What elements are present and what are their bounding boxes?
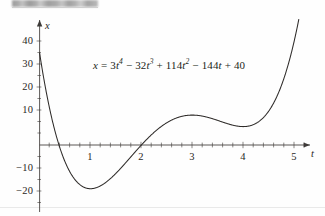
equation-term2-exp: 3 <box>150 57 154 66</box>
equation-op1: − <box>126 59 132 71</box>
y-tick-label-10: 10 <box>0 104 33 115</box>
equation-term3-coef: 114 <box>166 59 183 71</box>
equation-op4: + <box>225 59 231 71</box>
y-tick-label-40: 40 <box>0 35 33 46</box>
equation-constant: 40 <box>234 59 245 71</box>
x-tick-label-5: 5 <box>284 151 304 162</box>
y-axis-arrow-icon <box>37 20 42 27</box>
x-tick-label-2: 2 <box>131 151 151 162</box>
x-tick-label-4: 4 <box>233 151 253 162</box>
x-tick-label-3: 3 <box>182 151 202 162</box>
equation-lhs: x <box>93 59 98 71</box>
equation-term4-coef: 144 <box>202 59 219 71</box>
polynomial-curve <box>40 19 299 188</box>
y-tick-label-20: 20 <box>0 81 33 92</box>
equation-equals: = <box>101 59 107 71</box>
equation-term3-exp: 2 <box>186 57 190 66</box>
y-tick-label-30: 30 <box>0 58 33 69</box>
x-tick-label-1: 1 <box>80 151 100 162</box>
x-axis-arrow-icon <box>304 142 310 147</box>
y-tick-label-neg20: −20 <box>0 185 33 196</box>
equation-term2-coef: 32 <box>135 59 146 71</box>
y-axis-label: x <box>45 20 50 31</box>
equation-term1-exp: 4 <box>119 57 123 66</box>
equation-op2: + <box>157 59 163 71</box>
figure-container: x t 40 30 20 10 −10 −20 1 2 3 4 5 x = 3t… <box>0 0 325 216</box>
x-axis-label: t <box>311 148 314 159</box>
y-axis-minor-ticks <box>37 41 42 203</box>
equation-term4-var: t <box>219 59 222 71</box>
polynomial-plot <box>0 0 325 216</box>
y-tick-label-neg10: −10 <box>0 162 33 173</box>
equation-annotation: x = 3t4 − 32t3 + 114t2 − 144t + 40 <box>93 57 245 71</box>
equation-op3: − <box>192 59 198 71</box>
